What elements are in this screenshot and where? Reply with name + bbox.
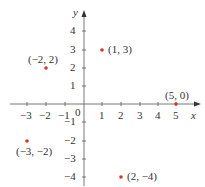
y-tick-label: 4 bbox=[70, 25, 76, 36]
x-axis-arrow-icon bbox=[194, 102, 201, 107]
point-neg3-neg2 bbox=[25, 139, 29, 143]
point-2-neg4 bbox=[119, 175, 123, 179]
x-axis-label: x bbox=[191, 110, 196, 121]
y-axis-arrow-icon bbox=[82, 10, 87, 17]
y-tick-label: −2 bbox=[64, 135, 76, 146]
x-tick-label: 2 bbox=[118, 110, 124, 121]
point-1-3 bbox=[100, 48, 104, 52]
y-tick-label: −4 bbox=[64, 171, 76, 182]
y-tick-label: 3 bbox=[70, 44, 76, 55]
x-tick-label: −1 bbox=[58, 110, 70, 121]
point-label: (1, 3) bbox=[108, 44, 132, 55]
y-tick-label: 1 bbox=[70, 80, 76, 91]
point-label: (2, −4) bbox=[127, 171, 157, 182]
y-tick-label: 2 bbox=[70, 62, 76, 73]
point-neg2-2 bbox=[44, 66, 48, 70]
point-label: (−2, 2) bbox=[28, 54, 58, 65]
point-label: (−3, −2) bbox=[16, 146, 52, 157]
x-tick-label: −2 bbox=[39, 110, 51, 121]
x-tick-label: 1 bbox=[99, 110, 105, 121]
x-tick-label: 4 bbox=[155, 110, 161, 121]
point-label: (5, 0) bbox=[165, 90, 189, 101]
point-5-0 bbox=[174, 102, 178, 106]
y-tick-label: −3 bbox=[64, 153, 76, 164]
x-tick-label: 3 bbox=[137, 110, 143, 121]
origin-label: 0 bbox=[75, 107, 81, 118]
x-tick-label: 5 bbox=[173, 110, 179, 121]
x-tick-label: −3 bbox=[20, 110, 32, 121]
y-axis-label: y bbox=[73, 7, 78, 18]
